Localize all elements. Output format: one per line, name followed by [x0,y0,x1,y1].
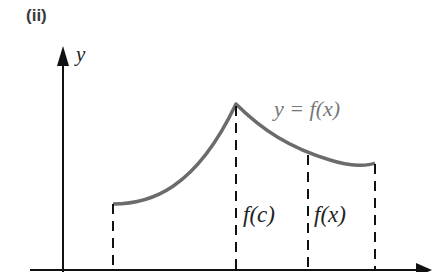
x-axis-arrow-icon [416,263,432,272]
y-axis-arrow-icon [57,46,69,66]
f-of-c-label: f(c) [243,202,275,228]
f-of-x-label: f(x) [314,202,346,228]
graph [0,0,432,272]
y-axis-label: y [76,42,85,67]
curve-label: y = f(x) [274,96,340,122]
